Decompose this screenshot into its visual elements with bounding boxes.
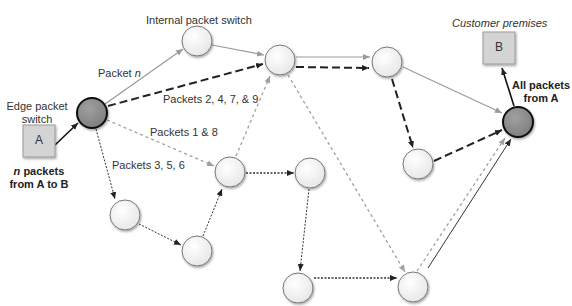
edge-switch-destination[interactable] <box>503 107 533 137</box>
packets-18-label: Packets 1 & 8 <box>150 126 218 139</box>
n-packets-rest: packets <box>20 165 64 177</box>
internal-switch-node[interactable] <box>283 273 313 303</box>
internal-switch-node[interactable] <box>265 45 295 75</box>
internal-switch-node[interactable] <box>215 157 245 187</box>
packet-n-var: n <box>135 67 141 79</box>
path-packets-2479 <box>108 64 502 161</box>
edge-switch-source[interactable] <box>77 98 107 128</box>
all-packets-line1: All packets <box>510 79 572 92</box>
n-packets-line2: from A to B <box>6 178 72 191</box>
host-b-label: B <box>483 41 515 54</box>
internal-switch-node[interactable] <box>372 47 402 77</box>
edge-switch-label-line1: Edge packet <box>6 100 68 113</box>
internal-switch-node[interactable] <box>398 272 428 302</box>
internal-switch-node[interactable] <box>110 200 140 230</box>
edge-switch-label-line2: switch <box>6 113 68 126</box>
packets-2479-label: Packets 2, 4, 7, & 9 <box>163 93 258 106</box>
internal-switch-node[interactable] <box>182 26 212 56</box>
all-packets-label: All packets from A <box>510 79 572 105</box>
n-packets-label: n packets from A to B <box>6 165 72 191</box>
internal-switch-node[interactable] <box>182 236 212 266</box>
packets-356-label: Packets 3, 5, 6 <box>112 159 185 172</box>
packet-n-prefix: Packet <box>98 67 135 79</box>
internal-switch-node[interactable] <box>403 149 433 179</box>
n-packets-line1: n packets <box>6 165 72 178</box>
packet-n-label: Packet n <box>98 67 141 80</box>
link-a-to-edge <box>55 123 78 145</box>
internal-switch-label: Internal packet switch <box>146 14 252 27</box>
all-packets-line2: from A <box>510 92 572 105</box>
path-packets-356 <box>96 129 511 278</box>
internal-switch-node[interactable] <box>295 158 325 188</box>
host-a-label: A <box>23 134 55 147</box>
edge-switch-label: Edge packet switch <box>6 100 68 126</box>
customer-premises-label: Customer premises <box>452 17 547 30</box>
